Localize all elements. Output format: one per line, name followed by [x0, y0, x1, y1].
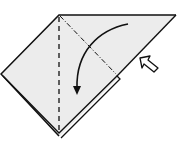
push-arrow [140, 56, 158, 72]
paper-shape [1, 15, 176, 138]
origami-diagram [0, 0, 182, 144]
